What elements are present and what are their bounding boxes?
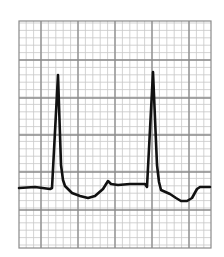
ecg-chart: [0, 0, 224, 257]
